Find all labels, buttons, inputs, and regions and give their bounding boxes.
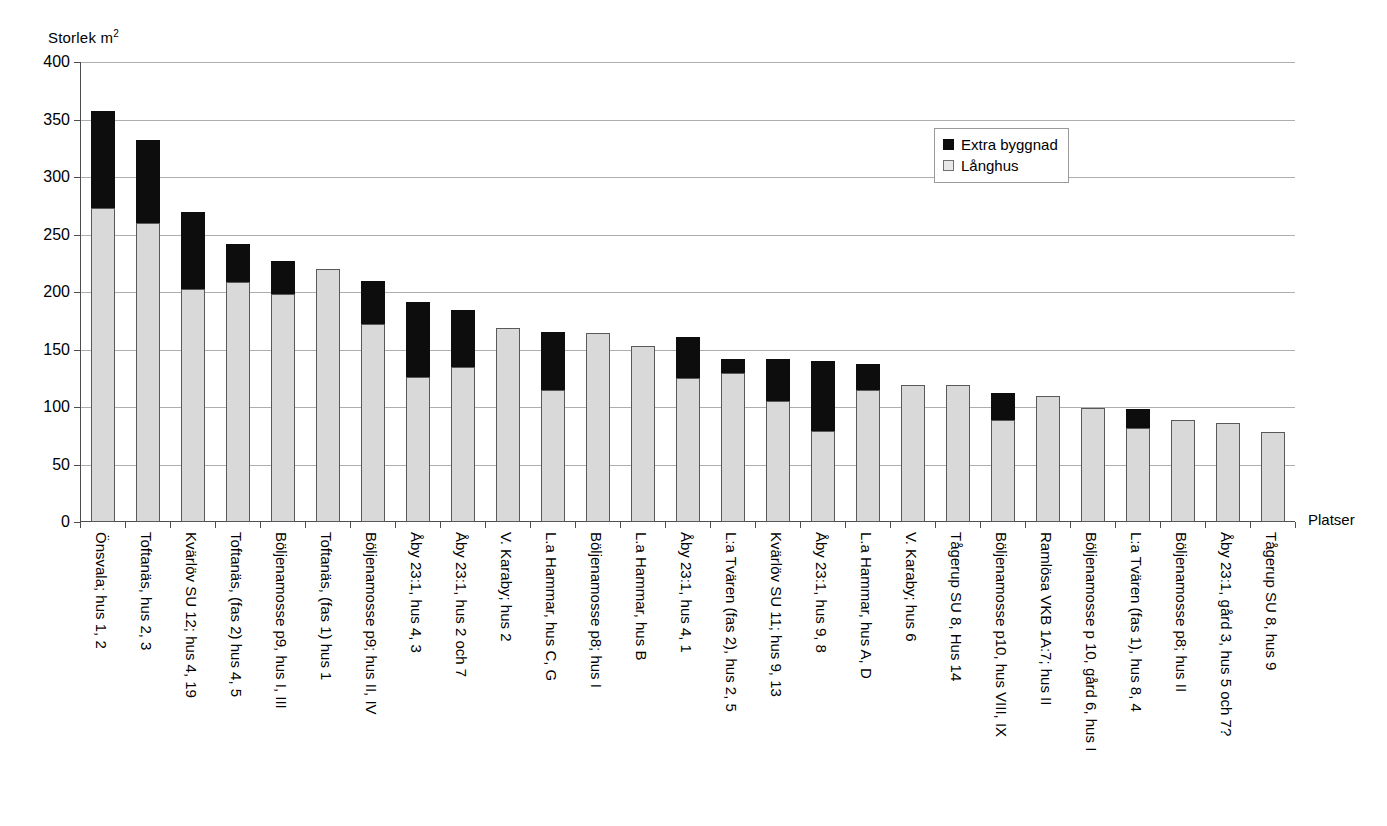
bar-group[interactable] [1171,62,1195,522]
y-axis-tick-mark [74,350,80,351]
gray-square-icon [943,160,954,171]
bar-segment-extra-byggnad[interactable] [361,281,385,325]
bar-segment-langhus[interactable] [271,294,295,522]
bar-segment-langhus[interactable] [766,401,790,522]
x-axis-tick-mark [1295,522,1296,528]
bar-segment-extra-byggnad[interactable] [676,337,700,378]
bar-group[interactable] [721,62,745,522]
bar-group[interactable] [361,62,385,522]
y-axis-tick-label: 100 [43,398,70,416]
y-axis-tick-mark [74,120,80,121]
bar-segment-extra-byggnad[interactable] [226,244,250,282]
bar-segment-langhus[interactable] [586,333,610,522]
bar-segment-extra-byggnad[interactable] [1126,409,1150,427]
bar-segment-extra-byggnad[interactable] [856,364,880,389]
bar-group[interactable] [1126,62,1150,522]
bar-segment-langhus[interactable] [631,346,655,522]
bar-segment-extra-byggnad[interactable] [766,359,790,402]
bar-group[interactable] [541,62,565,522]
bar-segment-langhus[interactable] [1171,420,1195,522]
y-axis-tick-mark [74,62,80,63]
bar-segment-langhus[interactable] [496,328,520,522]
bar-segment-langhus[interactable] [181,289,205,522]
bar-segment-langhus[interactable] [946,385,970,522]
y-axis-tick-mark [74,292,80,293]
x-axis-category-label: L.a Hammar, hus C, G [544,532,559,681]
x-axis-category-label: Åby 23:1, hus 2 och 7 [454,532,469,677]
bar-group[interactable] [451,62,475,522]
y-axis-tick-labels: 050100150200250300350400 [18,62,70,522]
bar-group[interactable] [766,62,790,522]
bar-segment-langhus[interactable] [991,420,1015,522]
x-axis-category-label: V. Karaby; hus 6 [904,532,919,642]
bar-segment-extra-byggnad[interactable] [541,332,565,390]
bar-group[interactable] [496,62,520,522]
bar-group[interactable] [676,62,700,522]
bar-segment-extra-byggnad[interactable] [811,361,835,431]
x-axis-category-label: L.a Hammar, hus A, D [859,532,874,679]
bar-segment-extra-byggnad[interactable] [451,310,475,366]
x-axis-title: Platser [1308,511,1355,528]
bar-segment-extra-byggnad[interactable] [271,261,295,294]
bar-segment-langhus[interactable] [361,324,385,522]
x-axis-category-label: Kvärlöv SU 12; hus 4, 19 [184,532,199,698]
bar-group[interactable] [586,62,610,522]
bar-segment-extra-byggnad[interactable] [991,393,1015,419]
x-axis-category-label: Tågerup SU 8, hus 9 [1264,532,1279,670]
bar-group[interactable] [811,62,835,522]
bar-segment-extra-byggnad[interactable] [181,212,205,289]
x-axis-category-label: Åby 23:1, hus 4, 1 [679,532,694,653]
bar-group[interactable] [1261,62,1285,522]
bar-segment-langhus[interactable] [1081,408,1105,522]
legend-item-langhus: Långhus [943,155,1058,176]
bar-segment-langhus[interactable] [91,208,115,522]
y-axis-title-superscript: 2 [113,28,119,39]
bar-group[interactable] [271,62,295,522]
bar-group[interactable] [856,62,880,522]
bar-group[interactable] [136,62,160,522]
bar-segment-langhus[interactable] [136,223,160,522]
bar-group[interactable] [1081,62,1105,522]
bar-segment-langhus[interactable] [451,367,475,522]
bar-group[interactable] [1216,62,1240,522]
bar-group[interactable] [901,62,925,522]
x-axis-category-label: Toftanäs, (fas 1) hus 1 [319,532,334,680]
bar-segment-langhus[interactable] [721,373,745,523]
bar-segment-langhus[interactable] [856,390,880,522]
bar-segment-langhus[interactable] [406,377,430,522]
y-axis-title-text: Storlek m [48,29,113,46]
black-square-icon [943,139,954,150]
y-axis-tick-label: 50 [52,456,70,474]
bar-segment-langhus[interactable] [1126,428,1150,522]
bar-group[interactable] [316,62,340,522]
x-axis-category-label: Önsvala; hus 1, 2 [94,532,109,649]
bar-segment-langhus[interactable] [316,269,340,522]
bar-segment-langhus[interactable] [811,431,835,522]
bar-segment-langhus[interactable] [541,390,565,522]
bar-segment-extra-byggnad[interactable] [91,111,115,208]
x-axis-category-label: Böljenamosse p 10, gård 6, hus I [1084,532,1099,751]
bar-group[interactable] [631,62,655,522]
bar-segment-langhus[interactable] [1216,423,1240,522]
bar-segment-langhus[interactable] [1261,432,1285,522]
bar-segment-langhus[interactable] [901,385,925,522]
x-axis-category-label: L:a Tvären (fas 1), hus 8, 4 [1129,532,1144,712]
bar-segment-extra-byggnad[interactable] [721,359,745,373]
bar-group[interactable] [181,62,205,522]
legend-item-label: Extra byggnad [961,136,1058,153]
bar-segment-langhus[interactable] [226,282,250,522]
bar-group[interactable] [91,62,115,522]
bar-segment-langhus[interactable] [1036,396,1060,523]
y-axis-tick-mark [74,235,80,236]
y-axis-tick-label: 400 [43,53,70,71]
bar-segment-extra-byggnad[interactable] [136,140,160,223]
bar-group[interactable] [406,62,430,522]
bar-segment-extra-byggnad[interactable] [406,302,430,377]
x-axis-category-label: Böljenamosse p8; hus II [1174,532,1189,692]
bar-chart: Storlek m2 Platser 050100150200250300350… [0,0,1387,826]
bar-group[interactable] [226,62,250,522]
legend: Extra byggnad Långhus [934,128,1069,183]
legend-item-extra-byggnad: Extra byggnad [943,134,1058,155]
x-axis-category-label: Böljenamosse p9, hus I, III [274,532,289,709]
bar-segment-langhus[interactable] [676,378,700,522]
